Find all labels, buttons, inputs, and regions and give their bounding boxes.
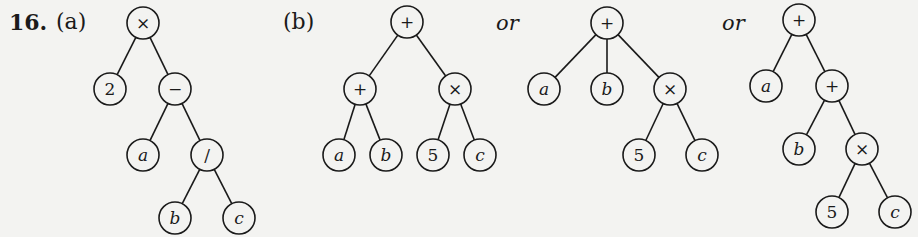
tree-node: c [464,139,496,171]
node-label: b [170,208,181,228]
tree-node: 5 [623,139,655,171]
tree-d: +a+b×5c [750,4,911,228]
tree-node: a [323,139,355,171]
tree-node: + [591,7,623,39]
node-label: c [697,145,707,165]
tree-edge [214,169,232,203]
node-label: c [234,208,244,228]
tree-node: c [686,139,718,171]
node-label: a [138,145,148,165]
node-label: a [539,79,549,99]
tree-edge [416,35,445,76]
tree-edge [646,103,663,140]
tree-node: b [159,202,191,234]
tree-edge [150,37,168,74]
tree-node: b [370,139,402,171]
node-label: 5 [634,145,645,165]
tree-edge [438,104,450,140]
tree-edge [773,34,792,71]
tree-edge [839,163,855,197]
tree-node: + [344,73,376,105]
tree-edge [150,103,168,140]
tree-edge [806,100,824,135]
tree-edge [182,169,200,203]
tree-edge [117,37,136,74]
tree-edge [182,103,200,140]
node-label: a [334,145,344,165]
tree-a: ×2−a/bc [94,7,255,234]
tree-edge [366,104,380,140]
node-label: + [600,13,614,33]
tree-node: a [528,73,560,105]
tree-node: 5 [816,196,848,228]
node-label: / [204,145,210,165]
node-label: b [602,79,613,99]
tree-node: c [879,196,911,228]
tree-node: × [846,133,878,165]
node-label: 2 [105,79,116,99]
tree-c: +ab×5c [528,7,718,171]
node-label: + [400,12,414,32]
node-label: + [825,76,839,96]
tree-node: b [783,133,815,165]
tree-node: × [439,73,471,105]
tree-node: + [783,4,815,36]
tree-edge [839,100,855,134]
tree-node: + [391,6,423,38]
tree-node: 5 [417,139,449,171]
tree-b: ++×ab5c [323,6,496,171]
node-label: a [761,76,771,96]
tree-edge [869,163,887,198]
tree-node: 2 [94,73,126,105]
tree-node: a [127,139,159,171]
tree-edge [806,34,825,71]
tree-node: × [654,73,686,105]
node-label: × [448,79,462,99]
node-label: b [794,139,805,159]
tree-node: + [816,70,848,102]
tree-edge [677,103,695,140]
tree-node: − [159,73,191,105]
node-label: × [855,139,869,159]
tree-node: / [191,139,223,171]
tree-edge [344,104,355,140]
node-label: + [353,79,367,99]
node-label: c [890,202,900,222]
tree-node: b [591,73,623,105]
tree-node: a [750,70,782,102]
tree-node: × [127,7,159,39]
node-label: × [136,13,150,33]
tree-edge [555,35,596,78]
tree-edge [618,35,659,78]
node-label: b [381,145,392,165]
node-label: × [663,79,677,99]
node-label: c [475,145,485,165]
node-label: 5 [827,202,838,222]
tree-edge [369,35,398,76]
tree-node: c [223,202,255,234]
node-label: − [168,79,182,99]
node-label: + [792,10,806,30]
node-label: 5 [428,145,439,165]
expression-trees: ×2−a/bc++×ab5c+ab×5c+a+b×5c [0,0,918,237]
tree-edge [461,104,475,140]
